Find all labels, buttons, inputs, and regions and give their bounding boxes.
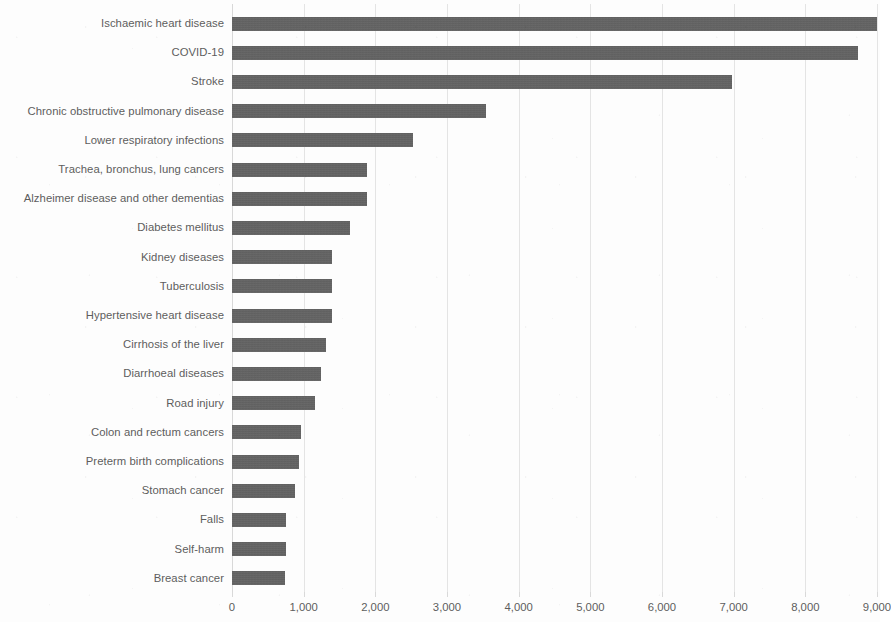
bar-series — [232, 4, 877, 592]
bar-row — [232, 447, 877, 476]
bar — [232, 367, 321, 381]
bar — [232, 17, 877, 31]
x-tick-mark — [447, 592, 448, 597]
bar — [232, 250, 332, 264]
x-tick-label: 4,000 — [505, 601, 533, 613]
bar — [232, 75, 732, 89]
bar — [232, 221, 350, 235]
bar-row — [232, 301, 877, 330]
bar — [232, 104, 486, 118]
bar — [232, 396, 315, 410]
x-tick-label: 2,000 — [361, 601, 389, 613]
category-label: COVID-19 — [0, 38, 228, 67]
bar-row — [232, 184, 877, 213]
bar-row — [232, 213, 877, 242]
bar-row — [232, 359, 877, 388]
x-tick-label: 0 — [229, 601, 235, 613]
plot-area — [232, 4, 877, 592]
x-axis: 01,0002,0003,0004,0005,0006,0007,0008,00… — [232, 592, 877, 622]
category-label: Hypertensive heart disease — [0, 301, 228, 330]
category-label: Trachea, bronchus, lung cancers — [0, 155, 228, 184]
bar-row — [232, 97, 877, 126]
bar-row — [232, 418, 877, 447]
bar-row — [232, 564, 877, 593]
x-tick-mark — [805, 592, 806, 597]
category-axis: Ischaemic heart diseaseCOVID-19StrokeChr… — [0, 4, 228, 592]
bar-row — [232, 272, 877, 301]
bar — [232, 338, 326, 352]
x-tick-label: 7,000 — [720, 601, 748, 613]
x-tick-mark — [232, 592, 233, 597]
x-tick-mark — [662, 592, 663, 597]
category-label: Cirrhosis of the liver — [0, 330, 228, 359]
x-tick-label: 8,000 — [791, 601, 819, 613]
bar — [232, 484, 295, 498]
bar — [232, 513, 286, 527]
bar-row — [232, 535, 877, 564]
bar — [232, 279, 332, 293]
bar-row — [232, 67, 877, 96]
category-label: Diabetes mellitus — [0, 213, 228, 242]
bar-row — [232, 505, 877, 534]
bar-row — [232, 243, 877, 272]
category-label: Self-harm — [0, 535, 228, 564]
x-tick-mark — [304, 592, 305, 597]
category-label: Stroke — [0, 67, 228, 96]
x-tick-mark — [519, 592, 520, 597]
bar — [232, 425, 301, 439]
bar — [232, 455, 299, 469]
bar-row — [232, 155, 877, 184]
bar-row — [232, 126, 877, 155]
x-tick-mark — [375, 592, 376, 597]
bar — [232, 163, 367, 177]
x-tick-label: 9,000 — [863, 601, 891, 613]
category-label: Ischaemic heart disease — [0, 9, 228, 38]
gridline-9000 — [877, 4, 878, 592]
category-label: Chronic obstructive pulmonary disease — [0, 97, 228, 126]
bar-row — [232, 330, 877, 359]
category-label: Preterm birth complications — [0, 447, 228, 476]
category-label: Road injury — [0, 389, 228, 418]
category-label: Diarrhoeal diseases — [0, 359, 228, 388]
category-label: Kidney diseases — [0, 243, 228, 272]
category-label: Lower respiratory infections — [0, 126, 228, 155]
category-label: Tuberculosis — [0, 272, 228, 301]
bar — [232, 542, 286, 556]
x-tick-label: 6,000 — [648, 601, 676, 613]
category-label: Alzheimer disease and other dementias — [0, 184, 228, 213]
x-tick-label: 5,000 — [576, 601, 604, 613]
x-tick-label: 1,000 — [290, 601, 318, 613]
x-tick-label: 3,000 — [433, 601, 461, 613]
category-label: Stomach cancer — [0, 476, 228, 505]
bar — [232, 192, 367, 206]
bar-row — [232, 9, 877, 38]
bar-row — [232, 476, 877, 505]
bar-row — [232, 38, 877, 67]
bar — [232, 46, 858, 60]
bar — [232, 133, 413, 147]
x-tick-mark — [734, 592, 735, 597]
bar-row — [232, 389, 877, 418]
bar — [232, 571, 285, 585]
x-tick-mark — [877, 592, 878, 597]
bar — [232, 309, 332, 323]
x-tick-mark — [590, 592, 591, 597]
category-label: Falls — [0, 505, 228, 534]
category-label: Colon and rectum cancers — [0, 418, 228, 447]
category-label: Breast cancer — [0, 564, 228, 593]
